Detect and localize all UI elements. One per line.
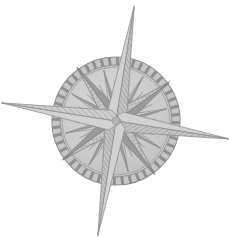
compass-rose-figure bbox=[0, 0, 229, 237]
compass-rose-graphic bbox=[0, 0, 229, 237]
